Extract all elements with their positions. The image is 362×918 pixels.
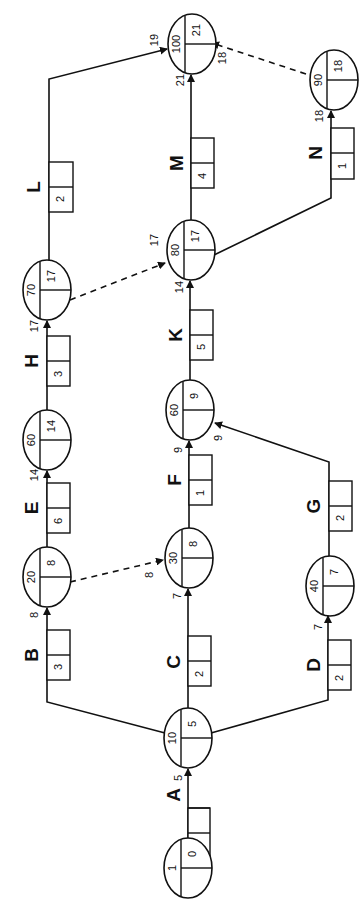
activity-duration: 3: [52, 371, 64, 377]
arrival-time: 8: [143, 572, 155, 578]
activity-k: K 5 14: [165, 281, 213, 380]
event-time: 9: [188, 393, 200, 399]
arrival-time: 18: [313, 110, 325, 122]
event-time: 5: [186, 721, 198, 727]
arrival-time: 21: [174, 74, 186, 86]
activity-h: H 3 17: [21, 320, 70, 410]
event-number: 90: [312, 74, 324, 86]
activity-duration: 2: [334, 515, 346, 521]
event-time: 21: [190, 24, 202, 36]
activity-c: C 2 7: [163, 589, 211, 708]
activity-g: G 2 9: [212, 423, 352, 556]
event-node: 20 8: [23, 547, 71, 607]
event-node: 10 5: [164, 708, 212, 768]
arrival-time: 9: [172, 447, 184, 453]
event-node: 60 9: [166, 380, 214, 440]
arrival-time: 8: [28, 612, 40, 618]
activity-label: H: [21, 354, 42, 368]
arrival-time: 19: [148, 34, 160, 46]
activity-duration: 1: [336, 163, 348, 169]
activity-m: M 4 21: [166, 74, 214, 220]
activity-label: N: [305, 146, 326, 160]
activity-l: L 2 19: [23, 34, 167, 260]
arrival-time: 17: [148, 234, 160, 246]
arrival-time: 17: [28, 320, 40, 332]
activity-duration: 4: [196, 173, 208, 179]
event-number: 10: [166, 732, 178, 744]
activity-d: D 2 7: [211, 616, 351, 733]
event-node: 80 17: [167, 220, 215, 280]
event-number: 80: [169, 244, 181, 256]
activity-duration: 2: [193, 671, 205, 677]
event-number: 20: [25, 571, 37, 583]
event-node: 90 18: [310, 50, 358, 110]
activity-label: G: [303, 499, 324, 514]
activity-label: E: [21, 502, 42, 515]
event-time: 14: [45, 420, 57, 432]
event-number: 70: [25, 284, 37, 296]
activity-n: N 1 18: [214, 110, 354, 255]
event-number: 1: [166, 865, 178, 871]
event-time: 8: [45, 560, 57, 566]
arrival-time: 18: [216, 52, 228, 64]
event-time: 17: [189, 230, 201, 242]
event-number: 40: [308, 580, 320, 592]
arrival-time: 5: [172, 775, 184, 781]
arrival-time: 14: [28, 469, 40, 481]
event-time: 7: [328, 569, 340, 575]
activity-label: M: [166, 155, 187, 171]
event-number: 60: [25, 434, 37, 446]
activity-label: K: [165, 328, 186, 342]
event-node: 100 21: [168, 14, 216, 74]
event-number: 100: [170, 35, 182, 53]
activity-duration: 1: [194, 490, 206, 496]
activity-label: B: [21, 648, 42, 662]
arrival-time: 14: [173, 281, 185, 293]
activity-label: D: [303, 658, 324, 672]
activity-duration: 3: [52, 664, 64, 670]
dummy-20-30: 8: [70, 560, 163, 582]
activity-duration: 2: [333, 675, 345, 681]
activity-duration: 5: [195, 344, 207, 350]
event-time: 0: [186, 851, 198, 857]
arrival-time: 7: [312, 624, 324, 630]
activity-label: A: [163, 788, 184, 802]
event-time: 18: [332, 60, 344, 72]
activity-label: L: [23, 181, 44, 193]
event-node: 1 0: [164, 838, 212, 898]
event-node: 40 7: [306, 556, 354, 616]
activity-e: E 6 14: [21, 469, 70, 547]
activity-duration: 2: [54, 196, 66, 202]
dummy-90-100: 18: [212, 43, 306, 74]
event-number: 30: [167, 552, 179, 564]
arrival-time: 9: [212, 435, 224, 441]
event-number: 60: [168, 404, 180, 416]
event-node: 70 17: [23, 260, 71, 320]
event-time: 8: [187, 541, 199, 547]
event-time: 17: [45, 270, 57, 282]
event-node: 60 14: [23, 410, 71, 470]
activity-label: F: [164, 474, 185, 486]
arrival-time: 7: [171, 593, 183, 599]
activity-duration: 6: [52, 518, 64, 524]
activity-f: F 1 9: [164, 441, 212, 528]
network-diagram: A 5 5 B 3 8 C 2 7 D 2 7 E 6 14: [0, 0, 362, 918]
event-node: 30 8: [165, 528, 213, 588]
dummy-70-80: 17: [70, 234, 165, 300]
activity-b: B 3 8: [21, 608, 165, 733]
activity-label: C: [163, 655, 184, 669]
